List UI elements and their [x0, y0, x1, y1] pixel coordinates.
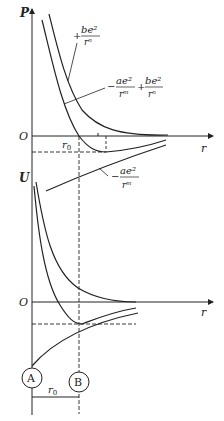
total-force-curve [42, 20, 166, 152]
leader-attractive [99, 168, 108, 176]
atom-b: B [69, 372, 89, 392]
svg-text:−: − [111, 171, 119, 182]
force-energy-diagram: P O r r0 + be² rⁿ − ae² [0, 0, 224, 421]
separation-label: r0 [48, 384, 57, 397]
origin-label-top: O [19, 130, 28, 143]
p-axis-label: P [19, 6, 30, 20]
r0-label-top: r0 [62, 139, 71, 152]
label-attractive: − ae² rᵐ [111, 165, 139, 190]
leader-total [64, 88, 105, 104]
force-plot: P O r r0 + be² rⁿ − ae² [19, 6, 213, 415]
svg-text:rⁿ: rⁿ [148, 89, 156, 99]
svg-text:be²: be² [81, 24, 97, 35]
svg-text:ae²: ae² [120, 165, 136, 176]
svg-text:rᵐ: rᵐ [119, 89, 129, 99]
svg-text:B: B [74, 376, 82, 389]
label-total: − ae² rᵐ + be² rⁿ [107, 75, 163, 99]
svg-text:rᵐ: rᵐ [122, 180, 132, 190]
svg-text:rⁿ: rⁿ [84, 37, 92, 47]
svg-text:ae²: ae² [116, 75, 132, 86]
attractive-energy-curve [32, 313, 138, 366]
r-axis-label-top: r [201, 142, 207, 155]
svg-text:be²: be² [145, 75, 161, 86]
atom-a: A [22, 368, 42, 388]
leader-repulsive [68, 43, 77, 81]
total-energy-curve [34, 186, 136, 324]
diagram-svg: P O r r0 + be² rⁿ − ae² [0, 0, 224, 421]
r-axis-label-bottom: r [201, 306, 207, 319]
svg-text:A: A [26, 372, 36, 385]
svg-text:−: − [107, 81, 115, 92]
origin-label-bottom: O [19, 296, 28, 309]
energy-plot: U O r [19, 171, 213, 366]
u-axis-label: U [19, 171, 31, 185]
